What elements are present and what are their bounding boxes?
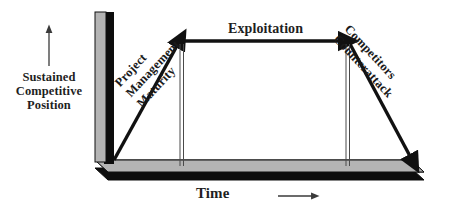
x-axis-label: Time [196,186,229,202]
y-axis-label-line-2: Competitive [6,84,92,98]
y-axis-label-line-3: Position [6,98,92,112]
y-axis-bar [95,12,114,164]
diagram-canvas: Sustained Competitive Position Time Expl… [0,0,456,214]
x-axis-bar [95,160,424,180]
y-axis-label-line-1: Sustained [6,70,92,84]
phase-label-exploitation: Exploitation [228,22,303,37]
y-axis-label: Sustained Competitive Position [6,70,92,112]
